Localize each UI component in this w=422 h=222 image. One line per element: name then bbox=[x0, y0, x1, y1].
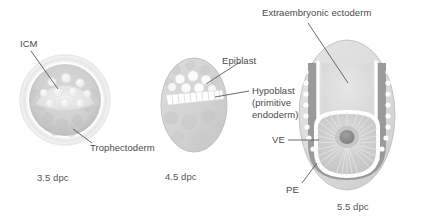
pe-leader-line bbox=[302, 163, 317, 183]
stage-5-5-dpc-egg-cylinder bbox=[288, 23, 395, 190]
label-trophectoderm: Trophectoderm bbox=[90, 142, 155, 153]
label-epiblast: Epiblast bbox=[222, 55, 256, 66]
stage-3-5-dpc-blastocyst bbox=[20, 51, 110, 145]
stage-label-5-5-dpc: 5.5 dpc bbox=[337, 201, 369, 212]
label-extraembryonic-ectoderm: Extraembryonic ectoderm bbox=[262, 7, 371, 18]
proamniotic-cavity bbox=[340, 130, 355, 144]
label-pe: PE bbox=[286, 184, 299, 195]
label-ve: VE bbox=[272, 134, 285, 145]
label-hypoblast-primitive: (primitive bbox=[252, 97, 291, 108]
embryo-development-diagram bbox=[0, 0, 422, 222]
stage-4-5-dpc-embryo bbox=[161, 58, 249, 152]
label-hypoblast: Hypoblast bbox=[252, 85, 295, 96]
label-hypoblast-endoderm: endoderm) bbox=[252, 109, 298, 120]
stage-label-4-5-dpc: 4.5 dpc bbox=[165, 171, 197, 182]
stage-label-3-5-dpc: 3.5 dpc bbox=[37, 172, 69, 183]
label-icm: ICM bbox=[20, 38, 38, 49]
